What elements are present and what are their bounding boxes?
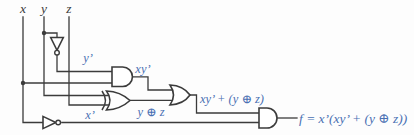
wire-xy-not bbox=[133, 77, 174, 90]
circuit-canvas: x y z y’ xy’ x’ y ⊕ z xy’ + (y ⊕ z) f = … bbox=[0, 0, 414, 135]
input-label-y: y bbox=[39, 1, 47, 16]
junction-dot-x bbox=[21, 81, 25, 85]
junction-dot-y bbox=[42, 31, 46, 35]
not-gate-y-bubble bbox=[55, 50, 60, 55]
wire-label-y-xor-z: y ⊕ z bbox=[135, 105, 164, 119]
and-gate-2 bbox=[259, 108, 277, 128]
not-gate-y-triangle bbox=[51, 38, 64, 51]
not-gate-x-bubble bbox=[56, 120, 61, 125]
wire-input-y bbox=[44, 17, 109, 96]
and-gate-1 bbox=[112, 67, 132, 87]
not-gate-x bbox=[43, 116, 61, 128]
wire-label-or-output: xy’ + (y ⊕ z) bbox=[199, 92, 264, 106]
not-gate-x-triangle bbox=[43, 116, 56, 128]
input-label-z: z bbox=[65, 1, 72, 16]
wire-input-x bbox=[23, 17, 43, 123]
wire-label-y-not: y’ bbox=[81, 51, 93, 65]
labels: x y z y’ xy’ x’ y ⊕ z xy’ + (y ⊕ z) f = … bbox=[19, 1, 408, 126]
wire-label-xy-not: xy’ bbox=[134, 62, 150, 76]
or-gate bbox=[170, 85, 190, 105]
xor-gate bbox=[102, 91, 130, 110]
logic-circuit-diagram: x y z y’ xy’ x’ y ⊕ z xy’ + (y ⊕ z) f = … bbox=[0, 0, 414, 135]
wire-label-x-not: x’ bbox=[84, 108, 95, 122]
input-label-x: x bbox=[19, 1, 26, 16]
output-label-f: f = x’(xy’ + (y ⊕ z)) bbox=[299, 111, 408, 126]
not-gate-y bbox=[51, 38, 64, 56]
xor-gate-back-arc bbox=[102, 91, 106, 110]
xor-gate-body bbox=[107, 91, 131, 110]
